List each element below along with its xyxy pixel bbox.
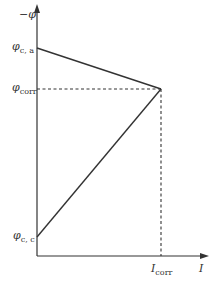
anodic-line <box>37 48 161 89</box>
phi-ca-label: φc, a <box>12 41 34 55</box>
i-corr-label: Icorr <box>151 263 172 277</box>
phi-corr-symbol: φ <box>12 81 20 94</box>
phi-cc-subscript: c, c <box>21 235 35 244</box>
x-axis-label: I <box>199 263 203 274</box>
i-corr-subscript: corr <box>155 268 172 277</box>
phi-cc-label: φc, c <box>13 230 35 244</box>
phi-ca-subscript: c, a <box>20 46 34 55</box>
cathodic-line <box>37 89 161 237</box>
phi-cc-symbol: φ <box>13 229 21 242</box>
phi-ca-symbol: φ <box>12 40 20 53</box>
x-axis-arrow-icon <box>200 253 209 259</box>
phi-corr-subscript: corr <box>20 87 37 96</box>
y-axis-label: −φ <box>19 9 36 20</box>
phi-corr-label: φcorr <box>12 82 37 96</box>
